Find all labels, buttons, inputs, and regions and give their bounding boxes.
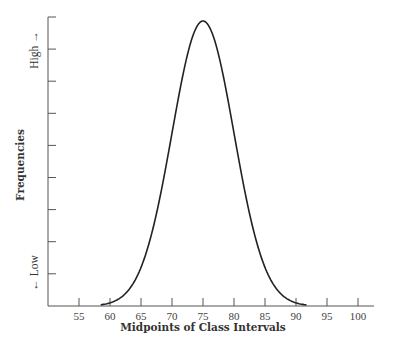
x-axis-title: Midpoints of Class Intervals [120, 321, 286, 333]
y-high-label: High → [28, 31, 41, 68]
x-tick-label: 100 [350, 310, 367, 322]
normal-distribution-chart: 556065707580859095100 Midpoints of Class… [0, 0, 394, 352]
x-tick-label: 95 [322, 310, 334, 322]
bell-curve [101, 21, 307, 305]
x-axis: 556065707580859095100 [48, 298, 374, 322]
y-low-label: ← Low [28, 255, 40, 291]
y-axis [48, 17, 56, 306]
x-axis-ticks [79, 298, 358, 306]
x-tick-label: 55 [74, 310, 86, 322]
y-axis-ticks [48, 17, 56, 274]
y-axis-title: Frequencies [14, 129, 26, 201]
x-tick-label: 60 [105, 310, 117, 322]
x-tick-label: 90 [291, 310, 303, 322]
